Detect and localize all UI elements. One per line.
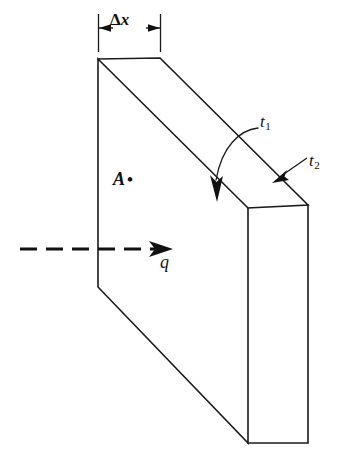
area-point-label: A• [113,170,133,188]
surface-temperature-1-label: t1 [260,113,271,132]
thickness-variable: x [121,10,130,29]
delta-symbol: Δ [110,10,121,29]
t1-subscript: 1 [265,120,271,132]
surface-temperature-2-label: t2 [309,152,320,171]
leader-t2 [272,158,307,183]
dimension-arrowhead-right [148,24,160,31]
slab-right-face-fill [248,205,308,443]
heat-flux-label: q [160,253,169,271]
area-point-marker-icon: • [125,170,133,189]
figure-container: Δx A• q t1 t2 [0,0,349,462]
area-symbol: A [113,169,125,189]
t2-subscript: 2 [314,159,320,171]
slab-diagram-svg [0,0,349,462]
thickness-dimension-label: Δx [110,11,130,28]
